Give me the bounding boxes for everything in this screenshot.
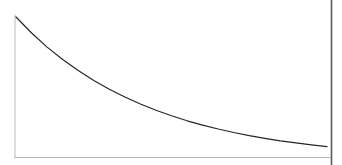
chart-background: [0, 0, 342, 165]
decay-curve-figure: [0, 0, 342, 165]
chart-canvas: [0, 0, 342, 165]
